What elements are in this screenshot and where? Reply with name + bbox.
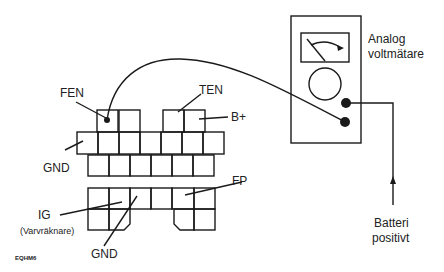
label-fp: FP [232,174,247,188]
label-ig: IG [38,208,51,222]
pin-gnd-lower [130,188,151,209]
pin-ten [163,110,184,132]
meter-label-line2: voltmätare [368,47,424,61]
meter-label-line1: Analog [368,32,405,46]
upper-connector [77,110,224,176]
label-gnd-lower: GND [91,247,118,261]
lower-connector [88,188,215,230]
pin [130,155,151,176]
battery-label-line2: positivt [372,231,410,245]
pin [182,132,203,154]
pin [193,155,214,176]
fen-probe-point [104,117,110,123]
pin [151,188,172,209]
pin [140,132,161,154]
pin [151,155,172,176]
label-ig-note: (Varvräknare) [20,226,74,236]
arrow-head-icon [337,45,344,51]
label-gnd-upper: GND [43,161,70,175]
pin [161,132,182,154]
pin [98,132,119,154]
pin [88,209,109,230]
pin [109,155,130,176]
pin [194,209,215,230]
pin [88,155,109,176]
label-b-plus: B+ [231,110,246,124]
voltmeter-terminal-positive [341,98,351,108]
voltmeter-scale-arc [311,42,340,47]
pin-chamfered [174,209,194,230]
voltmeter-dial [309,68,341,100]
pin [119,132,140,154]
label-fen: FEN [60,86,84,100]
pin [203,132,224,154]
figure-code: EQHM6 [15,255,37,261]
leader-gnd-upper [65,141,83,150]
voltmeter-terminal-negative [340,117,350,127]
pin-ig [109,188,130,209]
pin [119,110,140,132]
battery-lead-wire [346,103,393,205]
arrow-up-icon [390,176,396,184]
pin-fp [172,188,194,209]
test-lead-wire [107,59,345,122]
pin-b-plus [184,110,205,132]
pin [172,155,193,176]
leader-b-plus [199,117,228,119]
battery-label-line1: Batteri [374,216,409,230]
label-ten: TEN [199,83,223,97]
diagnostic-connector-diagram: FEN TEN B+ GND FP IG (Varvräknare) GND A… [0,0,444,272]
